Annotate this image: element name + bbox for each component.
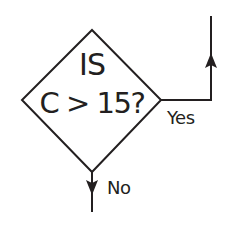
decision-text-line2: C > 15? [0,89,184,118]
no-branch-label: No [107,179,130,197]
decision-text-line1: IS [0,50,184,80]
flowchart-canvas: IS C > 15? Yes No [0,0,225,226]
yes-branch-label: Yes [167,109,195,127]
